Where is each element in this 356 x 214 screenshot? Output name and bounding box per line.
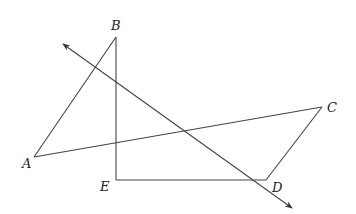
segment-dc [266,107,322,180]
point-label-c: C [327,100,337,115]
geometry-diagram: A B C D E [0,0,356,214]
point-label-d: D [271,180,283,195]
segment-ab [34,37,116,157]
double-arrow-line [63,44,292,208]
segment-ca [34,107,322,157]
polygon-segments [34,37,322,180]
point-label-e: E [99,179,110,194]
point-label-a: A [21,156,31,171]
point-label-b: B [110,18,121,33]
